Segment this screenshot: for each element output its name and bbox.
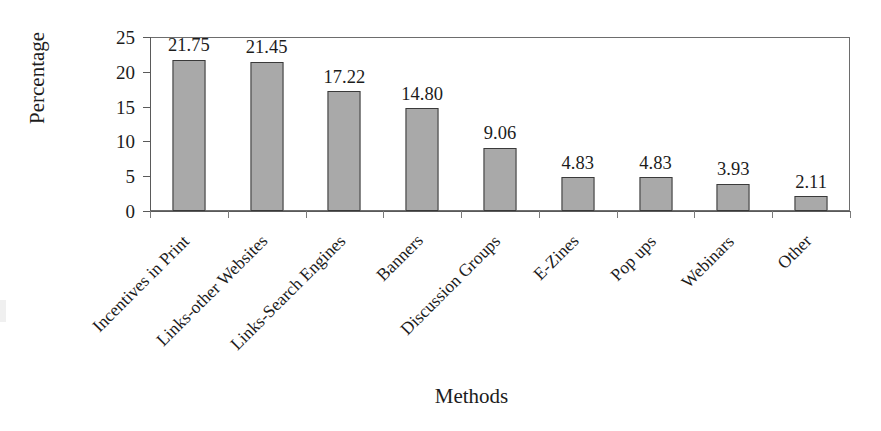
x-category-label: Webinars (678, 232, 737, 291)
bar-slot: 17.22 (306, 37, 384, 211)
y-tick-label-0: 0 (55, 202, 135, 221)
x-category-label: Pop ups (608, 232, 660, 284)
y-tick-label-20: 20 (55, 62, 135, 81)
bar (250, 62, 283, 211)
bar-value-label: 17.22 (324, 68, 366, 87)
bar (483, 148, 516, 211)
x-tick-7 (694, 211, 695, 218)
bar-slot: 3.93 (694, 37, 772, 211)
bar-slot: 2.11 (772, 37, 850, 211)
y-tick-label-10: 10 (55, 132, 135, 151)
bar (328, 91, 361, 211)
bar-slot: 4.83 (539, 37, 617, 211)
bar-value-label: 21.75 (168, 36, 210, 55)
x-axis-title-text: Methods (435, 386, 509, 407)
x-tick-4 (461, 211, 462, 218)
x-tick-1 (228, 211, 229, 218)
bar-value-label: 9.06 (484, 124, 516, 143)
y-axis-title: Percentage (27, 32, 48, 124)
bar-slot: 21.45 (228, 37, 306, 211)
x-axis-title: Methods (0, 386, 881, 407)
bar (717, 184, 750, 211)
x-tick-5 (539, 211, 540, 218)
bar-slot: 21.75 (150, 37, 228, 211)
bar (172, 60, 205, 211)
y-tick-label-15: 15 (55, 97, 135, 116)
x-tick-6 (617, 211, 618, 218)
bars-layer: 21.7521.4517.2214.809.064.834.833.932.11 (150, 37, 850, 211)
x-category-label: Banners (374, 232, 427, 285)
bar (561, 177, 594, 211)
bar (795, 196, 828, 211)
bar (406, 108, 439, 211)
bar-value-label: 3.93 (717, 160, 749, 179)
x-tick-9 (850, 211, 851, 218)
bar-slot: 4.83 (617, 37, 695, 211)
scan-edge-artifact (0, 300, 6, 322)
y-tick-label-5: 5 (55, 167, 135, 186)
bar-chart: Percentage 0510152025 21.7521.4517.2214.… (0, 0, 881, 431)
x-category-label: Other (774, 232, 815, 273)
bar-value-label: 14.80 (401, 85, 443, 104)
x-axis-line (150, 211, 850, 212)
y-tick-label-25: 25 (55, 28, 135, 47)
bar-value-label: 21.45 (246, 38, 288, 57)
x-category-label: E-Zines (531, 232, 583, 284)
x-tick-3 (383, 211, 384, 218)
bar-slot: 14.80 (383, 37, 461, 211)
x-tick-8 (772, 211, 773, 218)
bar-value-label: 2.11 (795, 173, 827, 192)
bar-slot: 9.06 (461, 37, 539, 211)
bar (639, 177, 672, 211)
x-tick-2 (306, 211, 307, 218)
bar-value-label: 4.83 (562, 154, 594, 173)
bar-value-label: 4.83 (639, 154, 671, 173)
x-tick-0 (150, 211, 151, 218)
